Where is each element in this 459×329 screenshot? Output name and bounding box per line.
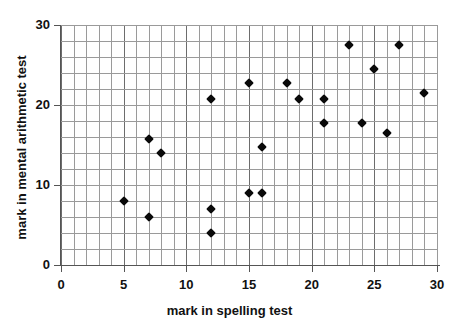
x-tick-label: 25 bbox=[359, 277, 389, 292]
x-tick-label: 0 bbox=[46, 277, 76, 292]
x-tick-label: 30 bbox=[422, 277, 452, 292]
x-tick-mark bbox=[374, 266, 375, 272]
x-tick-label: 5 bbox=[109, 277, 139, 292]
x-tick-mark bbox=[249, 266, 250, 272]
data-point bbox=[420, 88, 430, 98]
x-tick-mark bbox=[186, 266, 187, 272]
x-tick-mark bbox=[61, 266, 62, 272]
x-tick-mark bbox=[124, 266, 125, 272]
data-point bbox=[257, 188, 267, 198]
y-tick-mark bbox=[54, 265, 60, 266]
x-tick-label: 15 bbox=[234, 277, 264, 292]
data-point bbox=[294, 94, 304, 104]
x-tick-mark bbox=[437, 266, 438, 272]
x-tick-label: 20 bbox=[297, 277, 327, 292]
data-point bbox=[369, 64, 379, 74]
data-point bbox=[344, 40, 354, 50]
data-point bbox=[206, 94, 216, 104]
data-point bbox=[319, 94, 329, 104]
data-point bbox=[144, 134, 154, 144]
x-tick-label: 10 bbox=[171, 277, 201, 292]
data-point bbox=[156, 148, 166, 158]
x-tick-mark bbox=[312, 266, 313, 272]
y-tick-mark bbox=[54, 105, 60, 106]
data-point bbox=[257, 142, 267, 152]
data-point bbox=[206, 204, 216, 214]
y-tick-mark bbox=[54, 25, 60, 26]
data-points-layer bbox=[61, 25, 437, 265]
y-axis-title: mark in mental arithmetic test bbox=[14, 23, 29, 273]
data-point bbox=[244, 78, 254, 88]
plot-border-right bbox=[437, 25, 438, 265]
data-point bbox=[357, 118, 367, 128]
x-axis-title: mark in spelling test bbox=[0, 303, 459, 318]
data-point bbox=[382, 128, 392, 138]
data-point bbox=[319, 118, 329, 128]
data-point bbox=[119, 196, 129, 206]
data-point bbox=[244, 188, 254, 198]
data-point bbox=[394, 40, 404, 50]
plot-border-top bbox=[61, 25, 438, 26]
scatter-plot-figure: 0102030 051015202530 mark in spelling te… bbox=[0, 0, 459, 329]
data-point bbox=[206, 228, 216, 238]
y-tick-mark bbox=[54, 185, 60, 186]
data-point bbox=[282, 78, 292, 88]
data-point bbox=[144, 212, 154, 222]
plot-area bbox=[61, 25, 437, 265]
y-axis-line bbox=[60, 25, 61, 266]
